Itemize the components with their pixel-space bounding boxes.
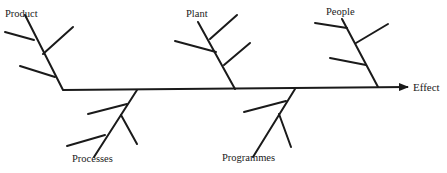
category-label-processes: Processes <box>72 153 113 164</box>
people-sub-branch <box>330 58 366 65</box>
category-label-programmes: Programmes <box>222 152 275 163</box>
bone-people <box>315 19 388 87</box>
product-sub-branch <box>5 32 34 40</box>
category-label-plant: Plant <box>186 8 208 19</box>
programmes-sub-branch <box>279 114 291 147</box>
product-sub-branch <box>43 27 73 54</box>
programmes-main-bone <box>253 89 295 157</box>
bone-processes <box>67 90 137 157</box>
fishbone-diagram: Effect Product Plant People Processes Pr… <box>0 0 447 173</box>
bone-plant <box>175 15 250 89</box>
people-sub-branch <box>315 23 347 28</box>
processes-sub-branch <box>67 135 105 146</box>
category-label-people: People <box>326 6 355 17</box>
plant-sub-branch <box>210 15 237 39</box>
people-sub-branch <box>356 24 388 43</box>
product-sub-branch <box>20 66 55 77</box>
effect-label: Effect <box>413 81 440 93</box>
programmes-sub-branch <box>244 101 286 112</box>
plant-sub-branch <box>224 43 250 65</box>
bone-programmes <box>244 89 295 157</box>
category-label-product: Product <box>5 8 38 19</box>
bone-product <box>5 15 73 90</box>
processes-main-bone <box>94 90 137 157</box>
people-main-bone <box>342 19 378 87</box>
processes-sub-branch <box>121 115 137 144</box>
processes-sub-branch <box>88 104 127 114</box>
